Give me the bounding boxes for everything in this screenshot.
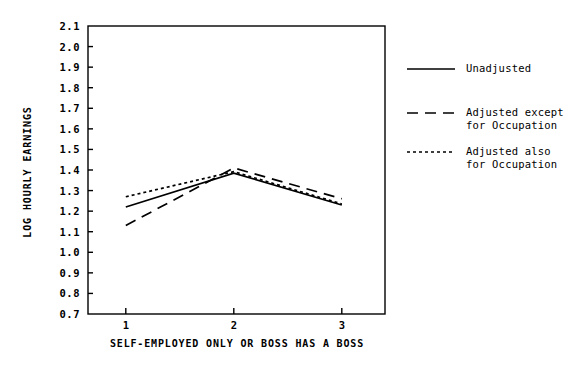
y-tick-label-text: 2.1 [50, 21, 80, 31]
y-tick-label-text: 2.0 [50, 42, 80, 52]
chart-figure: LOG HOURLY EARNINGS SELF-EMPLOYED ONLY O… [0, 0, 588, 373]
y-tick-label-text: 1.9 [50, 62, 80, 72]
y-tick-label-text: 1.0 [50, 247, 80, 257]
y-tick-label-text: 1.3 [50, 186, 80, 196]
y-tick-label-text: 1.7 [50, 103, 80, 113]
y-tick-label: 1.5 [48, 144, 80, 154]
y-tick-label: 2.0 [48, 42, 80, 52]
y-tick-label-text: 1.2 [50, 206, 80, 216]
x-axis-label: SELF-EMPLOYED ONLY OR BOSS HAS A BOSS [88, 338, 386, 349]
y-tick-label: 1.0 [48, 247, 80, 257]
y-tick-label: 0.9 [48, 268, 80, 278]
y-tick-label: 1.4 [48, 165, 80, 175]
y-tick-label-text: 1.8 [50, 83, 80, 93]
y-tick-label: 1.8 [48, 83, 80, 93]
y-tick-label: 1.7 [48, 103, 80, 113]
y-axis-label-text: LOG HOURLY EARNINGS [20, 72, 36, 272]
y-tick-label: 0.8 [48, 288, 80, 298]
y-tick-label: 1.3 [48, 186, 80, 196]
y-tick-label: 2.1 [48, 21, 80, 31]
y-tick-label: 1.9 [48, 62, 80, 72]
y-tick-label: 1.2 [48, 206, 80, 216]
legend-label-1: Unadjusted [466, 62, 531, 75]
y-tick-label: 0.7 [48, 309, 80, 319]
x-tick-label: 3 [332, 319, 352, 331]
plot-area [0, 0, 588, 373]
y-tick-label-text: 1.5 [50, 144, 80, 154]
legend-label-3: Adjusted also for Occupation [466, 145, 557, 171]
y-tick-label-text: 1.4 [50, 165, 80, 175]
y-tick-label-text: 1.1 [50, 227, 80, 237]
y-tick-label: 1.1 [48, 227, 80, 237]
x-tick-label: 2 [224, 319, 244, 331]
y-axis-label: LOG HOURLY EARNINGS [20, 0, 36, 72]
x-tick-label: 1 [116, 319, 136, 331]
y-tick-label-text: 1.6 [50, 124, 80, 134]
y-tick-label-text: 0.8 [50, 288, 80, 298]
y-tick-label-text: 0.7 [50, 309, 80, 319]
legend-label-2: Adjusted except for Occupation [466, 106, 564, 132]
y-tick-label-text: 0.9 [50, 268, 80, 278]
y-tick-label: 1.6 [48, 124, 80, 134]
